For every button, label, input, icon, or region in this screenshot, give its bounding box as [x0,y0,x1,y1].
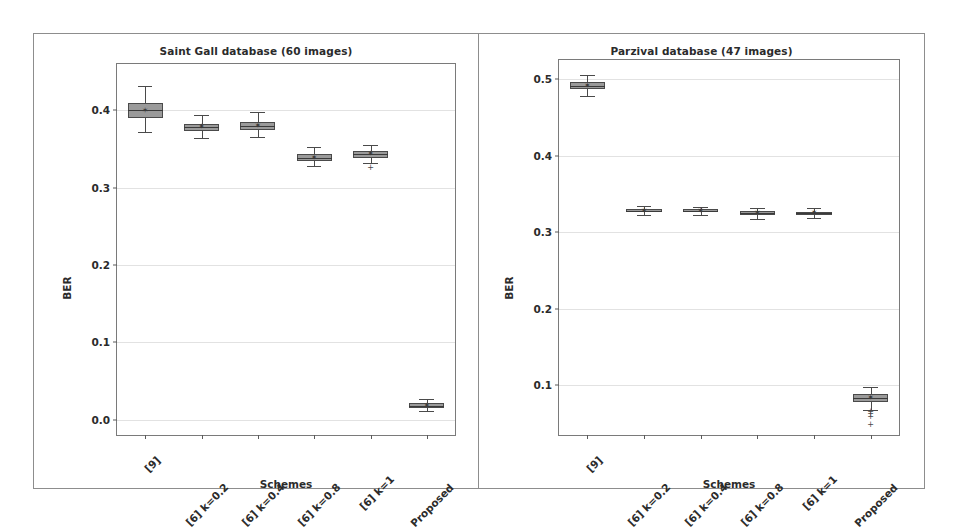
x-tick-mark [587,435,588,439]
box-plot-6: ✶ [117,64,455,435]
y-tick-label: 0.1 [91,336,110,348]
x-tick-label: [9] [142,454,162,474]
y-tick-label: 0.5 [533,73,552,85]
y-tick-label: 0.4 [533,150,552,162]
x-tick-mark [258,435,259,439]
x-tick-mark [757,435,758,439]
y-tick-label: 0.2 [533,303,552,315]
y-tick-label: 0.3 [533,226,552,238]
x-tick-mark [371,435,372,439]
box-plot-6: ✶++++ [559,60,899,435]
plot-area-left: 0.00.10.20.30.4[9][6] k=0.2[6] k=0.4[6] … [116,63,456,436]
chart-panel-saint-gall: Saint Gall database (60 images) BER Sche… [34,34,479,488]
chart-title-left: Saint Gall database (60 images) [34,45,478,57]
x-tick-mark [202,435,203,439]
x-tick-mark [314,435,315,439]
y-tick-label: 0.3 [91,182,110,194]
y-axis-label-right: BER [503,276,515,299]
x-tick-label: [9] [584,454,604,474]
y-tick-label: 0.2 [91,259,110,271]
y-tick-label: 0.4 [91,104,110,116]
plot-area-right: 0.10.20.30.40.5[9][6] k=0.2[6] k=0.4[6] … [558,59,900,436]
chart-title-right: Parzival database (47 images) [479,45,924,57]
mean-marker: ✶ [867,394,874,402]
chart-panel-parzival: Parzival database (47 images) BER Scheme… [479,34,924,488]
whisker-cap-upper [863,387,878,388]
y-tick-label: 0.1 [533,379,552,391]
x-tick-mark [644,435,645,439]
x-tick-mark [871,435,872,439]
whisker-cap-lower [419,411,434,412]
x-tick-mark [701,435,702,439]
mean-marker: ✶ [423,402,430,410]
y-tick-label: 0.0 [91,414,110,426]
figure-container: Saint Gall database (60 images) BER Sche… [33,33,925,489]
x-tick-mark [427,435,428,439]
x-tick-mark [145,435,146,439]
y-axis-label-left: BER [61,276,73,299]
x-tick-mark [814,435,815,439]
outlier-marker: + [867,421,874,429]
